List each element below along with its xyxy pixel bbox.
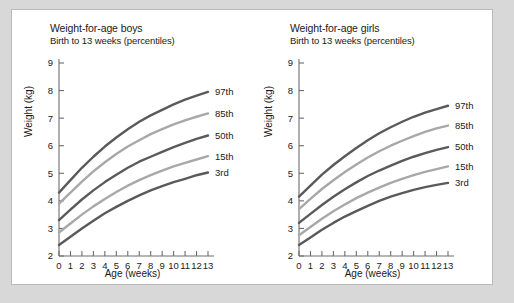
x-tick-label: 7 xyxy=(137,260,142,271)
x-tick-label: 11 xyxy=(420,260,430,271)
x-tick-label: 9 xyxy=(400,260,405,271)
x-tick-label: 0 xyxy=(296,260,301,271)
chart-panel-boys: Weight-for-age boys Birth to 13 weeks (p… xyxy=(12,10,252,284)
plot-area-boys: Weight (kg) Age (weeks) 2345678901234567… xyxy=(12,10,253,284)
plot-area-girls: Weight (kg) Age (weeks) 2345678901234567… xyxy=(252,10,493,284)
percentile-curve-3rd xyxy=(299,183,448,245)
y-tick-label: 6 xyxy=(48,140,53,151)
x-tick-label: 12 xyxy=(431,260,442,271)
y-tick-label: 2 xyxy=(48,250,53,261)
y-tick-label: 5 xyxy=(288,168,293,179)
percentile-label-85th: 85th xyxy=(215,108,234,119)
x-tick-label: 3 xyxy=(91,260,96,271)
y-tick-label: 8 xyxy=(288,85,293,96)
y-tick-label: 3 xyxy=(48,223,53,234)
y-tick-label: 4 xyxy=(48,195,53,206)
percentile-label-3rd: 3rd xyxy=(215,167,229,178)
percentile-label-50th: 50th xyxy=(455,141,474,152)
percentile-label-97th: 97th xyxy=(215,86,234,97)
x-tick-label: 10 xyxy=(168,260,179,271)
x-tick-label: 8 xyxy=(148,260,153,271)
x-tick-label: 1 xyxy=(68,260,73,271)
x-tick-label: 2 xyxy=(79,260,84,271)
chart-svg-girls: 2345678901234567891011121397th85th50th15… xyxy=(252,10,493,284)
x-tick-label: 1 xyxy=(308,260,313,271)
x-tick-label: 10 xyxy=(408,260,419,271)
x-tick-label: 2 xyxy=(319,260,324,271)
percentile-label-50th: 50th xyxy=(215,130,234,141)
y-tick-label: 3 xyxy=(288,223,293,234)
percentile-curve-97th xyxy=(299,106,448,197)
y-tick-label: 8 xyxy=(48,85,53,96)
x-tick-label: 8 xyxy=(388,260,393,271)
percentile-curve-85th xyxy=(59,113,208,203)
y-tick-label: 5 xyxy=(48,168,53,179)
percentile-label-85th: 85th xyxy=(455,120,474,131)
x-tick-label: 4 xyxy=(342,260,347,271)
percentile-label-15th: 15th xyxy=(215,151,234,162)
chart-svg-boys: 2345678901234567891011121397th85th50th15… xyxy=(12,10,253,284)
y-tick-label: 4 xyxy=(288,195,293,206)
y-tick-label: 9 xyxy=(48,57,53,68)
x-tick-label: 5 xyxy=(114,260,119,271)
percentile-label-97th: 97th xyxy=(455,100,474,111)
x-tick-label: 12 xyxy=(191,260,202,271)
x-tick-label: 11 xyxy=(180,260,190,271)
x-tick-label: 0 xyxy=(56,260,61,271)
percentile-curve-50th xyxy=(299,147,448,223)
x-tick-label: 6 xyxy=(125,260,130,271)
y-tick-label: 7 xyxy=(288,113,293,124)
percentile-label-15th: 15th xyxy=(455,161,474,172)
x-tick-label: 3 xyxy=(331,260,336,271)
x-tick-label: 9 xyxy=(160,260,165,271)
x-tick-label: 13 xyxy=(443,260,454,271)
chart-panel-girls: Weight-for-age girls Birth to 13 weeks (… xyxy=(252,10,492,284)
x-tick-label: 5 xyxy=(354,260,359,271)
y-tick-label: 2 xyxy=(288,250,293,261)
figure-panel: Weight-for-age boys Birth to 13 weeks (p… xyxy=(11,9,493,285)
x-tick-label: 4 xyxy=(102,260,107,271)
x-tick-label: 7 xyxy=(377,260,382,271)
percentile-label-3rd: 3rd xyxy=(455,177,469,188)
y-tick-label: 9 xyxy=(288,57,293,68)
y-tick-label: 7 xyxy=(48,113,53,124)
x-tick-label: 6 xyxy=(365,260,370,271)
y-tick-label: 6 xyxy=(288,140,293,151)
x-tick-label: 13 xyxy=(203,260,214,271)
